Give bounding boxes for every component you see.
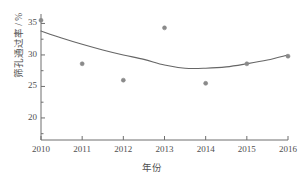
y-tick-label: 30	[13, 49, 37, 59]
data-point-markers	[39, 18, 290, 85]
chart-figure: 筛孔通过率 / % 年份 201020112012201320142015201…	[0, 0, 303, 181]
data-point-marker	[80, 62, 84, 66]
x-ticks-group	[41, 136, 288, 140]
x-tick-label: 2013	[145, 144, 185, 154]
data-point-marker	[121, 78, 125, 82]
data-point-marker	[204, 81, 208, 85]
axes-group	[41, 14, 288, 140]
x-tick-label: 2015	[227, 144, 267, 154]
x-axis-title: 年份	[0, 160, 303, 174]
y-tick-label: 20	[13, 112, 37, 122]
y-tick-label: 35	[13, 17, 37, 27]
data-point-marker	[245, 62, 249, 66]
x-tick-label: 2012	[103, 144, 143, 154]
trend-curve-line	[41, 31, 288, 68]
x-tick-label: 2014	[186, 144, 226, 154]
data-point-marker	[39, 18, 43, 22]
y-ticks-group	[41, 23, 45, 133]
y-tick-label: 25	[13, 80, 37, 90]
data-point-marker	[163, 26, 167, 30]
data-point-marker	[286, 54, 290, 58]
x-tick-label: 2011	[62, 144, 102, 154]
x-tick-label: 2010	[21, 144, 61, 154]
x-tick-label: 2016	[268, 144, 303, 154]
